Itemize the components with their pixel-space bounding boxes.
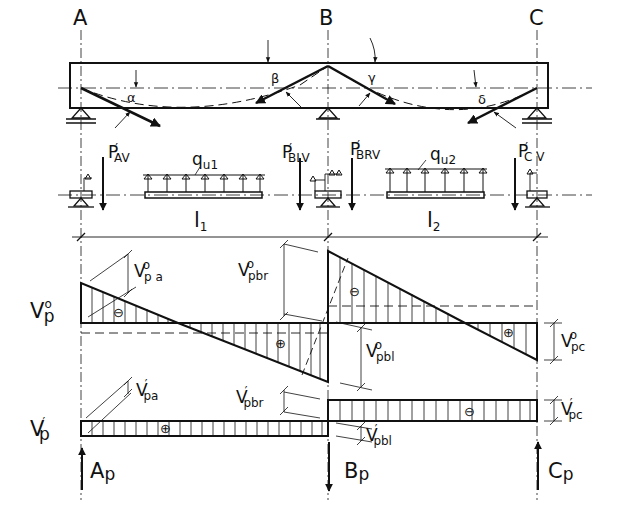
pointer-arrow: [286, 92, 302, 108]
dim-label-vp0-c: Vopc: [561, 328, 585, 354]
support-label-a: A: [73, 6, 88, 30]
support-label-b: B: [319, 6, 333, 30]
dim-label-vp0-br: Vopbr: [238, 257, 268, 283]
free-body-row: P′AV qu1 P′BLV P′BRV: [58, 138, 592, 241]
vp1-span1-rect: [81, 421, 328, 436]
label-p-blv: P′BLV: [282, 141, 311, 165]
span-label-l1: l1: [194, 208, 207, 234]
vp0-dashed-diagonal: [302, 258, 348, 375]
pointer-arrow: [359, 93, 370, 106]
label-p-cv: P′C V: [518, 140, 545, 164]
label-p-brv: P′BRV: [350, 138, 381, 162]
angle-alpha: α: [127, 90, 136, 105]
q1-load-arrows: [144, 174, 264, 192]
tendon-profile-span1: [81, 66, 328, 107]
angle-delta: δ: [478, 92, 486, 107]
pointer-arrow: [494, 112, 516, 128]
dim-label-vp1-c: V′pc: [561, 396, 583, 422]
diagram-label-vp1: V′p: [30, 415, 50, 444]
shear-diagram-vp0: Vop: [30, 240, 585, 391]
beam-elevation: A B C α β γ δ: [58, 6, 592, 500]
label-q1: qu1: [192, 149, 218, 172]
reaction-label-bp: Bp: [344, 459, 369, 484]
sign-vp0-span1-right: ⊕: [275, 336, 286, 351]
pointer-arrow: [474, 70, 476, 87]
dim-label-vp0-bl: Vopbl: [366, 338, 395, 364]
sign-vp0-span2-left: ⊖: [349, 284, 360, 299]
q2-load-arrows: [386, 168, 487, 192]
beam-shear-diagram: A B C α β γ δ P′AV qu1: [0, 0, 622, 517]
vp1-span2-rect: [328, 400, 537, 421]
sign-vp1-span1: ⊕: [160, 421, 171, 436]
pointer-arrow: [115, 112, 130, 128]
dim-label-vp1-bl: V′pbl: [366, 422, 392, 448]
vp0-span1-negative: [81, 283, 178, 323]
dim-label-vp1-a: V′pa: [136, 377, 158, 403]
support-label-c: C: [529, 6, 544, 30]
span-label-l2: l2: [427, 208, 440, 234]
label-p-av: P′AV: [108, 141, 130, 165]
vp0-span1-positive: [178, 323, 328, 382]
shear-diagram-vp1: V′p ⊕ ⊖: [30, 377, 583, 448]
sign-vp0-span2-right: ⊕: [503, 325, 514, 340]
sign-vp1-span2: ⊖: [464, 404, 475, 419]
angle-beta: β: [271, 71, 279, 86]
angle-gamma: γ: [368, 70, 376, 85]
reaction-label-ap: Ap: [90, 459, 115, 484]
force-arrow-b-right: [328, 66, 395, 104]
pointer-arrow: [370, 38, 375, 62]
beam-outline: [70, 63, 548, 108]
dim-label-vp0-a: Vop a: [134, 258, 163, 284]
reaction-label-cp: Cp: [548, 459, 573, 484]
vp1-dimension-lines: [86, 377, 562, 445]
sign-vp0-span1-left: ⊖: [113, 305, 124, 320]
label-q2: qu2: [430, 144, 456, 167]
diagram-label-vp0: Vop: [30, 297, 55, 326]
dim-label-vp1-br: V′pbr: [236, 384, 264, 410]
